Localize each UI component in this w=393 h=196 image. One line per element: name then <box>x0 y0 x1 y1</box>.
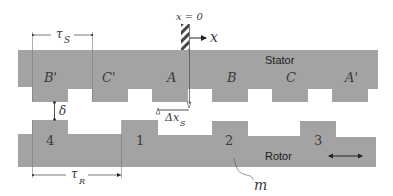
mass-label: m <box>254 177 267 193</box>
stator-body <box>18 50 378 102</box>
origin-label: x = 0 <box>176 11 203 22</box>
rotor-body <box>18 120 376 167</box>
stator: Stator B' C' A B C A' <box>18 50 378 102</box>
stator-pole-label: A' <box>344 70 358 85</box>
airgap-dimension: δ <box>53 101 66 121</box>
variable-reluctance-motor-diagram: Stator B' C' A B C A' Rotor 4 1 2 3 x = … <box>0 0 393 196</box>
rotor-pitch-subscript: R <box>78 177 85 186</box>
x-axis-label: x <box>210 29 218 45</box>
stator-pole-label: B <box>226 70 237 85</box>
rotor: Rotor 4 1 2 3 <box>18 120 376 167</box>
rotor-tooth-label: 2 <box>225 133 233 148</box>
offset-subscript: S <box>180 119 186 128</box>
offset-dimension: Δx S <box>156 102 191 128</box>
rotor-pitch-label: τ <box>71 167 78 181</box>
stator-label: Stator <box>265 54 295 66</box>
stator-pitch-label: τ <box>56 27 63 41</box>
rotor-tooth-label: 3 <box>314 133 322 148</box>
stator-pole-label: B' <box>43 70 57 85</box>
rotor-tooth-label: 1 <box>136 133 144 148</box>
rotor-tooth-label: 4 <box>46 133 54 148</box>
stator-pole-label: C' <box>102 70 116 85</box>
airgap-label: δ <box>59 104 66 118</box>
stator-pitch-subscript: S <box>64 35 70 45</box>
offset-label: Δx <box>164 111 180 124</box>
stator-pole-label: C <box>286 70 296 85</box>
stator-pole-label: A <box>166 70 176 85</box>
rotor-label: Rotor <box>265 150 292 162</box>
hatched-wall-icon <box>181 24 189 50</box>
